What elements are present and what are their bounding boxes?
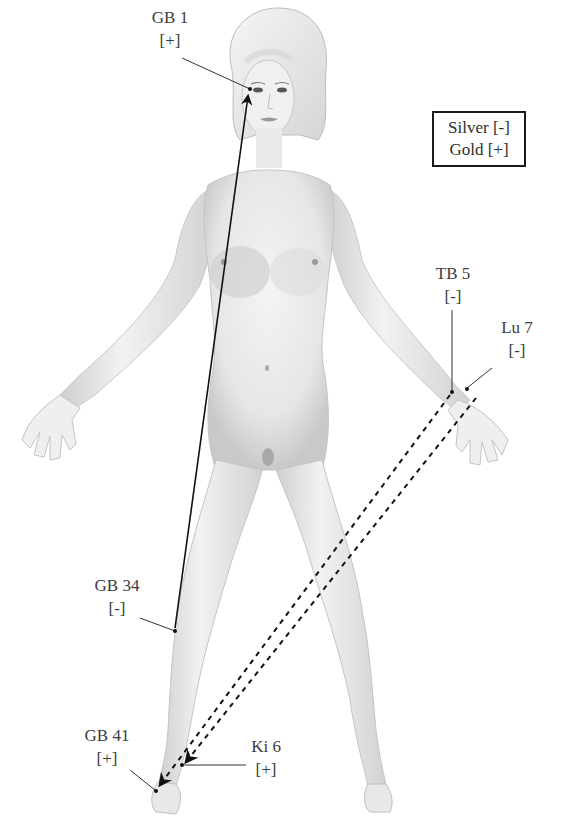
legend-silver: Silver [-] (434, 117, 524, 139)
gb34-dot (173, 629, 177, 633)
label-ki6: Ki 6 [+] (236, 735, 296, 781)
label-gb41: GB 41 [+] (72, 724, 142, 770)
tb5-polarity: [-] (423, 285, 483, 308)
label-tb5: TB 5 [-] (423, 262, 483, 308)
gb1-dot (248, 87, 252, 91)
gb34-polarity: [-] (82, 597, 152, 620)
neck (256, 128, 282, 168)
lu7-name: Lu 7 (487, 316, 547, 339)
label-gb34: GB 34 [-] (82, 574, 152, 620)
gb41-dot (154, 789, 158, 793)
lu7-leader (467, 368, 492, 388)
gb41-polarity: [+] (72, 747, 142, 770)
tb5-dot (450, 390, 454, 394)
label-lu7: Lu 7 [-] (487, 316, 547, 362)
lu7-dot (465, 387, 469, 391)
gb34-name: GB 34 (82, 574, 152, 597)
legend-box: Silver [-] Gold [+] (432, 111, 526, 167)
gb41-name: GB 41 (72, 724, 142, 747)
ki6-polarity: [+] (236, 758, 296, 781)
gb1-name: GB 1 (140, 6, 200, 29)
legend-gold: Gold [+] (434, 139, 524, 161)
tb5-name: TB 5 (423, 262, 483, 285)
gb41-leader (130, 770, 155, 790)
ki6-dot (180, 763, 184, 767)
ki6-name: Ki 6 (236, 735, 296, 758)
lu7-polarity: [-] (487, 339, 547, 362)
label-gb1: GB 1 [+] (140, 6, 200, 52)
gb1-polarity: [+] (140, 29, 200, 52)
torso (204, 170, 334, 470)
